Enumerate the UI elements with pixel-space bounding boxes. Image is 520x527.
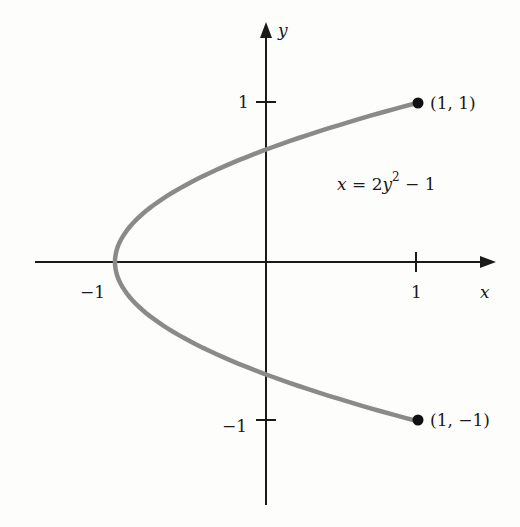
x-tick-label-minus-1: −1 — [80, 282, 105, 302]
parabola-diagram: y x 1 −1 1 −1 (1, 1) (1, −1) x = 2y2 − 1 — [0, 0, 520, 527]
x-axis-arrow-icon — [480, 256, 496, 268]
point-1-1 — [413, 98, 424, 109]
x-axis-label: x — [480, 282, 490, 302]
y-tick-label-1: 1 — [238, 92, 249, 112]
y-axis-arrow-icon — [260, 22, 272, 38]
y-axis-label: y — [277, 20, 288, 40]
point-1-minus-1 — [413, 415, 424, 426]
equation-label: x = 2y2 − 1 — [337, 170, 436, 194]
x-tick-label-1: 1 — [411, 282, 422, 302]
point-label-1-1: (1, 1) — [430, 93, 476, 113]
y-tick-label-minus-1: −1 — [222, 416, 247, 436]
point-label-1-minus-1: (1, −1) — [430, 410, 490, 430]
